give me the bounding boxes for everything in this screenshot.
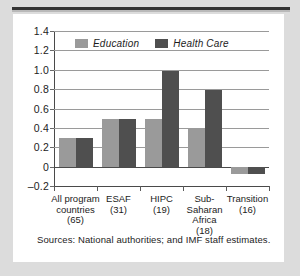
category-label-line: Sub- bbox=[187, 194, 223, 205]
bar[interactable] bbox=[76, 138, 93, 167]
legend-item-education[interactable]: Education bbox=[75, 38, 139, 49]
y-tick-label: 0.2 bbox=[34, 141, 49, 153]
top-rule-shadow bbox=[12, 10, 290, 12]
bar[interactable] bbox=[231, 167, 248, 175]
category-axis-tick bbox=[97, 186, 98, 191]
y-tick-mark bbox=[50, 128, 54, 129]
y-tick-label: 0.8 bbox=[34, 83, 49, 95]
category-axis-tick bbox=[54, 186, 55, 191]
y-tick-mark bbox=[50, 31, 54, 32]
category-axis-tick bbox=[140, 186, 141, 191]
category-label: All programcountries(65) bbox=[51, 194, 100, 226]
figure-card: 1.41.21.00.80.60.40.20–0.2 All programco… bbox=[13, 14, 284, 262]
source-note: Sources: National authorities; and IMF s… bbox=[37, 234, 270, 245]
plot-area: 1.41.21.00.80.60.40.20–0.2 All programco… bbox=[54, 31, 269, 186]
category-label: ESAF(31) bbox=[106, 194, 131, 215]
y-tick-mark bbox=[50, 70, 54, 71]
bar[interactable] bbox=[188, 129, 205, 167]
legend-swatch-education-icon bbox=[75, 39, 88, 48]
category-label-line: (65) bbox=[51, 215, 100, 226]
y-tick-label: 0.4 bbox=[34, 122, 49, 134]
y-tick-mark bbox=[50, 167, 54, 168]
y-tick-label: 1.4 bbox=[34, 25, 49, 37]
bar[interactable] bbox=[119, 119, 136, 166]
y-tick-label: –0.2 bbox=[28, 180, 49, 192]
category-label-line: (19) bbox=[150, 205, 173, 216]
bar[interactable] bbox=[102, 119, 119, 166]
category-axis-tick bbox=[269, 186, 270, 191]
category-label-line: (31) bbox=[106, 205, 131, 216]
category-label: Sub-SaharanAfrica(18) bbox=[187, 194, 223, 236]
category-axis-tick bbox=[226, 186, 227, 191]
bar[interactable] bbox=[205, 90, 222, 167]
category-label-line: Africa bbox=[187, 215, 223, 226]
bar[interactable] bbox=[59, 138, 76, 167]
y-tick-label: 0 bbox=[43, 160, 49, 172]
legend-label-education: Education bbox=[93, 38, 139, 49]
axis-baseline bbox=[54, 186, 269, 187]
chart-legend: Education Health Care bbox=[75, 38, 229, 49]
category-label: Transition(16) bbox=[227, 194, 268, 215]
y-tick-mark bbox=[50, 147, 54, 148]
category-label-line: ESAF bbox=[106, 194, 131, 205]
y-tick-mark bbox=[50, 109, 54, 110]
legend-item-health-care[interactable]: Health Care bbox=[155, 38, 229, 49]
gridline bbox=[54, 31, 269, 32]
legend-swatch-health-care-icon bbox=[155, 39, 168, 48]
y-tick-label: 1.0 bbox=[34, 64, 49, 76]
gridline bbox=[54, 50, 269, 51]
category-label: HIPC(19) bbox=[150, 194, 173, 215]
chart-canvas: 1.41.21.00.80.60.40.20–0.2 All programco… bbox=[13, 14, 284, 262]
category-axis-tick bbox=[183, 186, 184, 191]
bar[interactable] bbox=[162, 71, 179, 167]
legend-label-health-care: Health Care bbox=[173, 38, 229, 49]
y-tick-label: 1.2 bbox=[34, 44, 49, 56]
bar[interactable] bbox=[145, 119, 162, 166]
category-label-line: HIPC bbox=[150, 194, 173, 205]
bar[interactable] bbox=[248, 167, 265, 175]
category-label-line: (16) bbox=[227, 205, 268, 216]
figure-page: 1.41.21.00.80.60.40.20–0.2 All programco… bbox=[0, 0, 300, 276]
y-tick-label: 0.6 bbox=[34, 102, 49, 114]
category-label-line: All program bbox=[51, 194, 100, 205]
y-tick-mark bbox=[50, 89, 54, 90]
category-label-line: Transition bbox=[227, 194, 268, 205]
y-tick-mark bbox=[50, 50, 54, 51]
